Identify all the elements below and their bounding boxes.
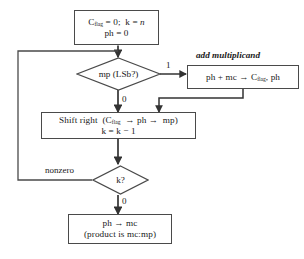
node-add-line-1: ph + mc → Cflag, ph xyxy=(206,72,280,83)
edge-add-to-shift xyxy=(159,89,243,112)
node-result-line-2: (product is mc:mp) xyxy=(84,229,156,240)
node-shift-line-2: k = k − 1 xyxy=(101,126,135,137)
node-result: ph → mc (product is mc:mp) xyxy=(68,214,172,244)
annotation-add-multiplicand: add multiplicand xyxy=(196,50,260,60)
edge-label-k-nonzero: nonzero xyxy=(45,165,74,175)
flowchart-diagram: Cflag = 0; k = n ph = 0 mp (LSb?) add mu… xyxy=(0,0,304,259)
node-shift: Shift right (Cflag → ph → mp) k = k − 1 xyxy=(41,112,196,139)
node-test-lsb-label: mp (LSb?) xyxy=(99,69,139,79)
edge-label-k-zero: 0 xyxy=(122,196,127,206)
node-test-k-label: k? xyxy=(116,175,125,185)
node-result-line-1: ph → mc xyxy=(103,218,138,229)
node-shift-line-1: Shift right (Cflag → ph → mp) xyxy=(59,115,178,126)
edge-label-lsb-one: 1 xyxy=(166,60,171,70)
node-add: ph + mc → Cflag, ph xyxy=(187,65,299,89)
node-init-line-2: ph = 0 xyxy=(104,28,128,39)
edge-label-lsb-zero: 0 xyxy=(122,94,127,104)
node-init-line-1: Cflag = 0; k = n xyxy=(88,17,145,28)
node-test-k: k? xyxy=(92,165,149,195)
node-init: Cflag = 0; k = n ph = 0 xyxy=(74,10,159,45)
node-test-lsb: mp (LSb?) xyxy=(76,57,161,91)
